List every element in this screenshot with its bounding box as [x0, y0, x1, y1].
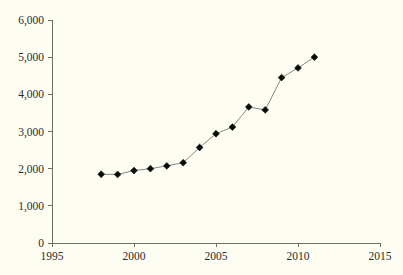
x-axis-tick-label: 2010 [287, 250, 310, 262]
x-axis-tick-label: 2015 [369, 250, 392, 262]
x-axis-tick-label: 1995 [41, 250, 64, 262]
line-chart: 01,0002,0003,0004,0005,0006,000 19952000… [0, 0, 403, 275]
x-axis-tick-label: 2005 [205, 250, 228, 262]
data-point-markers [98, 54, 318, 178]
y-axis-tick-label: 0 [38, 237, 44, 249]
y-axis-tick-label: 2,000 [18, 163, 44, 176]
x-axis-ticks [52, 243, 380, 247]
y-axis-tick-label: 6,000 [18, 14, 44, 27]
data-point-marker [295, 65, 302, 72]
data-point-marker [262, 107, 269, 114]
y-axis-tick-labels: 01,0002,0003,0004,0005,0006,000 [18, 14, 44, 249]
chart-container: 01,0002,0003,0004,0005,0006,000 19952000… [0, 0, 403, 275]
y-axis-tick-label: 3,000 [18, 126, 44, 139]
data-point-marker [114, 171, 121, 178]
y-axis-tick-label: 5,000 [18, 51, 44, 64]
data-point-marker [278, 74, 285, 81]
x-axis-tick-label: 2000 [123, 250, 146, 262]
x-axis-tick-labels: 19952000200520102015 [41, 250, 392, 262]
y-axis-tick-label: 4,000 [18, 88, 44, 101]
data-point-marker [147, 165, 154, 172]
y-axis-ticks [48, 20, 52, 243]
data-point-marker [131, 167, 138, 174]
data-point-marker [311, 54, 318, 61]
data-point-marker [163, 162, 170, 169]
y-axis-tick-label: 1,000 [18, 200, 44, 213]
data-point-marker [98, 171, 105, 178]
